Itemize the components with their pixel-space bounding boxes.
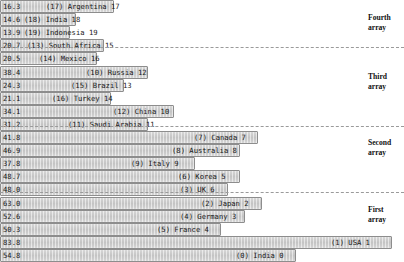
group-label-line: Second xyxy=(368,138,391,148)
bar-row: 13.9(19) Indonesia 19 xyxy=(0,26,404,39)
bar-label: (13) South Africa 15 xyxy=(27,39,114,52)
bar-row: 20.5(14) Mexico 16 xyxy=(0,52,404,65)
bar-value: 41.8 xyxy=(3,131,20,144)
bar-label: (8) Australia 8 xyxy=(172,144,237,157)
bar-row: 54.8(0) India 0 xyxy=(0,249,404,262)
bar-row: 24.3(15) Brazil 13 xyxy=(0,79,404,92)
bar-row: 50.3(5) France 4 xyxy=(0,223,404,236)
bar-label: (9) Italy 9 xyxy=(131,157,179,170)
bar-row: 37.8(9) Italy 9 xyxy=(0,157,404,170)
bar-label: (10) Russia 12 xyxy=(86,66,147,79)
bar-value: 46.9 xyxy=(3,144,20,157)
bar-row: 63.0(2) Japan 2 xyxy=(0,197,404,210)
bar-chart: 16.3(17) Argentina 1714.6(18) India 1813… xyxy=(0,0,404,262)
bar-value: 38.4 xyxy=(3,66,20,79)
bar-label: (2) Japan 2 xyxy=(201,197,249,210)
bar-value: 20.5 xyxy=(3,52,20,65)
bar-row: 34.1(12) China 10 xyxy=(0,105,404,118)
group-label-fourth-array: Fourtharray xyxy=(368,13,391,32)
bar-label: (0) India 0 xyxy=(236,249,284,262)
bar-value: 48.7 xyxy=(3,170,20,183)
bar-row: 21.1(16) Turkey 14 xyxy=(0,92,404,105)
bar-value: 16.3 xyxy=(3,0,20,13)
bar-label: (6) Korea 5 xyxy=(178,170,226,183)
bar-label: (12) China 10 xyxy=(113,105,169,118)
bar-row: 31.2(11) Saudi Arabia 11 xyxy=(0,118,404,131)
group-label-line: array xyxy=(368,23,391,33)
bar-label: (5) France 4 xyxy=(157,223,209,236)
bar-value: 48.0 xyxy=(3,183,20,196)
bar-label: (4) Germany 3 xyxy=(180,210,236,223)
bar-value: 37.8 xyxy=(3,157,20,170)
bar-row: 16.3(17) Argentina 17 xyxy=(0,0,404,13)
plot-area: 16.3(17) Argentina 1714.6(18) India 1813… xyxy=(0,0,404,262)
bar-row: 83.8(1) USA 1 xyxy=(0,236,404,249)
bar-value: 24.3 xyxy=(3,79,20,92)
bar-row: 46.9(8) Australia 8 xyxy=(0,144,404,157)
group-label-first-array: Firstarray xyxy=(368,205,386,224)
bar-row: 14.6(18) India 18 xyxy=(0,13,404,26)
bar-row: 48.7(6) Korea 5 xyxy=(0,170,404,183)
bar-label: (17) Argentina 17 xyxy=(46,0,120,13)
bar-value: 13.9 xyxy=(3,26,20,39)
group-label-line: First xyxy=(368,205,386,215)
bar-row: 41.8(7) Canada 7 xyxy=(0,131,404,144)
bar-value: 52.6 xyxy=(3,210,20,223)
bar-value: 83.8 xyxy=(3,236,20,249)
group-label-line: array xyxy=(368,148,391,158)
bar-row: 38.4(10) Russia 12 xyxy=(0,66,404,79)
bar-row: 52.6(4) Germany 3 xyxy=(0,210,404,223)
bar-label: (19) Indonesia 19 xyxy=(24,26,98,39)
group-label-line: array xyxy=(368,82,387,92)
group-label-line: Fourth xyxy=(368,13,391,23)
bar-label: (7) Canada 7 xyxy=(194,131,246,144)
bar-row: 48.0(3) UK 6 xyxy=(0,183,404,196)
group-label-line: Third xyxy=(368,72,387,82)
bar-value: 14.6 xyxy=(3,13,20,26)
group-divider-2 xyxy=(0,126,404,127)
bar-label: (16) Turkey 14 xyxy=(52,92,113,105)
bar-value: 63.0 xyxy=(3,197,20,210)
group-divider-1 xyxy=(0,47,404,48)
bar-value: 31.2 xyxy=(3,118,20,131)
bar-value: 34.1 xyxy=(3,105,20,118)
group-label-third-array: Thirdarray xyxy=(368,72,387,91)
bar-label: (18) India 18 xyxy=(24,13,80,26)
bar-label: (1) USA 1 xyxy=(331,236,370,249)
bar-label: (3) UK 6 xyxy=(180,183,215,196)
bar-row: 20.7(13) South Africa 15 xyxy=(0,39,404,52)
bar-value: 21.1 xyxy=(3,92,20,105)
group-divider-3 xyxy=(0,192,404,193)
group-label-second-array: Secondarray xyxy=(368,138,391,157)
bar-value: 50.3 xyxy=(3,223,20,236)
bar-label: (15) Brazil 13 xyxy=(71,79,132,92)
group-label-line: array xyxy=(368,215,386,225)
bar-label: (14) Mexico 16 xyxy=(39,52,100,65)
bar-value: 20.7 xyxy=(3,39,20,52)
bar-label: (11) Saudi Arabia 11 xyxy=(68,118,155,131)
bar-value: 54.8 xyxy=(3,249,20,262)
